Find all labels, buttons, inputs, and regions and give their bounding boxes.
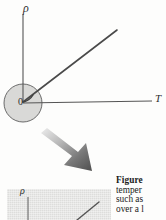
figure-page: ρ T 0 ρ Figure temper such as over a l bbox=[0, 0, 166, 220]
rho-axis-label-main: ρ bbox=[23, 2, 29, 14]
t-axis-label-main: T bbox=[155, 93, 161, 104]
magnify-arrow-icon bbox=[41, 128, 92, 171]
figure-caption: Figure temper such as over a l bbox=[116, 176, 166, 214]
resistivity-curve-inset bbox=[77, 202, 99, 220]
resistivity-curve-main bbox=[23, 30, 117, 102]
caption-line-3: over a l bbox=[116, 205, 166, 215]
origin-label: 0 bbox=[18, 97, 23, 107]
rho-axis-label-inset: ρ bbox=[20, 186, 25, 196]
